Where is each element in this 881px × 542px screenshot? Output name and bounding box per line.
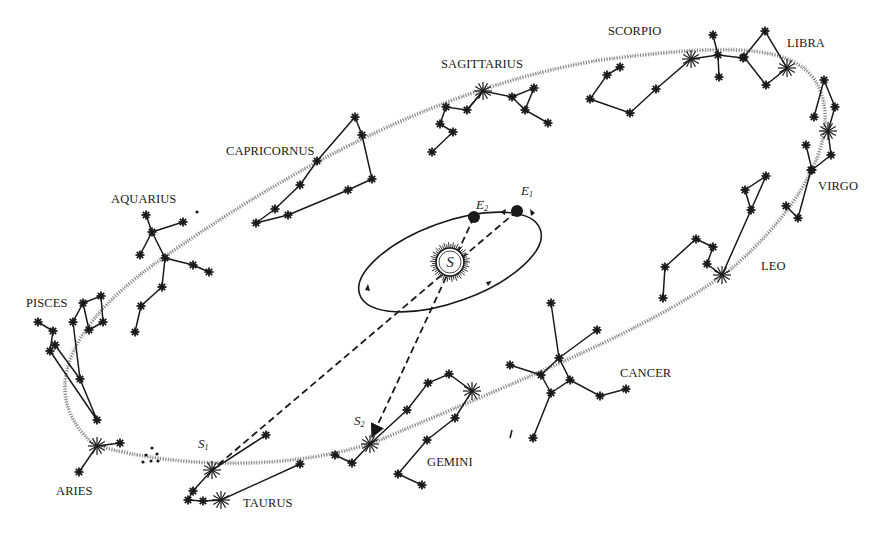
star-icon xyxy=(199,497,208,506)
position-label-subscript: 1 xyxy=(205,443,209,452)
star-icon xyxy=(709,31,718,40)
position-label-letter: E xyxy=(521,183,529,198)
star-icon xyxy=(116,439,125,448)
constellation-pisces xyxy=(38,296,103,420)
star-icon xyxy=(99,318,108,327)
zodiac-diagram: S xyxy=(0,0,881,542)
isolated-star-dot xyxy=(195,210,198,213)
star-icon xyxy=(344,186,353,195)
star-icon xyxy=(555,354,564,363)
star-icon xyxy=(137,302,146,311)
constellation-label-libra: LIBRA xyxy=(787,37,825,50)
star-icon xyxy=(51,341,60,350)
star-icon xyxy=(762,172,771,181)
star-icon xyxy=(451,414,460,423)
star-icon xyxy=(449,128,458,137)
star-icon xyxy=(161,254,170,263)
star-icon xyxy=(652,85,661,94)
star-icon xyxy=(49,327,58,336)
star-icon xyxy=(424,379,433,388)
star-icon xyxy=(85,326,94,335)
star-icon xyxy=(547,299,556,308)
star-icon xyxy=(586,95,595,104)
star-icon xyxy=(807,166,816,175)
star-icon xyxy=(184,496,193,505)
star-icon xyxy=(659,294,668,303)
star-icon xyxy=(351,113,360,122)
star-icon xyxy=(819,122,837,140)
star-icon xyxy=(463,106,472,115)
star-icon xyxy=(368,175,377,184)
star-icon xyxy=(394,470,403,479)
star-icon xyxy=(131,328,140,337)
constellation-label-sagittarius: SAGITTARIUS xyxy=(441,58,523,71)
star-icon xyxy=(142,211,151,220)
star-icon xyxy=(69,318,78,327)
star-icon xyxy=(709,243,718,252)
star-icon xyxy=(593,326,602,335)
star-icon xyxy=(566,376,575,385)
star-icon xyxy=(79,299,88,308)
orbit-direction-arrow-icon xyxy=(500,209,506,215)
star-icon xyxy=(189,487,198,496)
star-icon xyxy=(423,436,432,445)
star-icon xyxy=(762,81,771,90)
star-icon xyxy=(616,63,625,72)
sight-line-e1-s1 xyxy=(212,211,517,470)
position-label-e2: E2 xyxy=(476,198,488,213)
star-icon xyxy=(661,263,670,272)
star-icon xyxy=(703,260,712,269)
star-icon xyxy=(782,202,791,211)
star-icon xyxy=(284,211,293,220)
position-label-letter: E xyxy=(476,197,484,212)
star-icon xyxy=(596,392,605,401)
star-icon xyxy=(529,434,538,443)
constellation-label-scorpio: SCORPIO xyxy=(608,25,662,38)
star-icon xyxy=(626,109,635,118)
star-icon xyxy=(271,205,280,214)
star-icon xyxy=(403,406,412,415)
position-label-s1: S1 xyxy=(198,437,209,452)
star-icon xyxy=(148,228,157,237)
star-icon xyxy=(474,82,492,100)
position-label-letter: S xyxy=(198,436,205,451)
position-label-e1: E1 xyxy=(521,184,533,199)
star-icon xyxy=(97,292,106,301)
star-icon xyxy=(741,186,750,195)
star-icon xyxy=(88,437,106,455)
star-icon xyxy=(428,148,437,157)
constellation-label-aries: ARIES xyxy=(56,485,93,498)
star-icon xyxy=(622,385,631,394)
constellation-libra xyxy=(744,31,787,85)
star-icon xyxy=(778,59,796,77)
star-icon xyxy=(262,431,271,440)
star-icon xyxy=(189,261,198,270)
star-icon xyxy=(445,370,454,379)
star-icon xyxy=(331,451,340,460)
constellation-sagittarius xyxy=(432,88,548,152)
star-icon xyxy=(205,268,214,277)
star-icon xyxy=(713,266,731,284)
star-icon xyxy=(521,106,530,115)
constellation-label-gemini: GEMINI xyxy=(427,456,473,469)
constellation-scorpio xyxy=(590,35,743,113)
star-icon xyxy=(810,113,819,122)
position-label-s2: S2 xyxy=(354,414,365,429)
position-label-subscript: 1 xyxy=(529,190,533,199)
constellation-cancer xyxy=(510,303,626,438)
star-icon xyxy=(436,120,445,129)
star-icon xyxy=(252,219,261,228)
position-label-subscript: 2 xyxy=(484,204,488,213)
sun-label: S xyxy=(446,254,454,270)
star-icon xyxy=(348,459,357,468)
star-icon xyxy=(802,141,811,150)
star-icon xyxy=(93,416,102,425)
star-icon xyxy=(761,27,770,36)
constellation-label-capricornus: CAPRICORNUS xyxy=(226,145,315,158)
star-icon xyxy=(76,375,85,384)
star-icon xyxy=(442,103,451,112)
star-icon xyxy=(537,371,546,380)
star-icon xyxy=(603,71,612,80)
star-icon xyxy=(136,251,145,260)
star-icon xyxy=(296,460,305,469)
